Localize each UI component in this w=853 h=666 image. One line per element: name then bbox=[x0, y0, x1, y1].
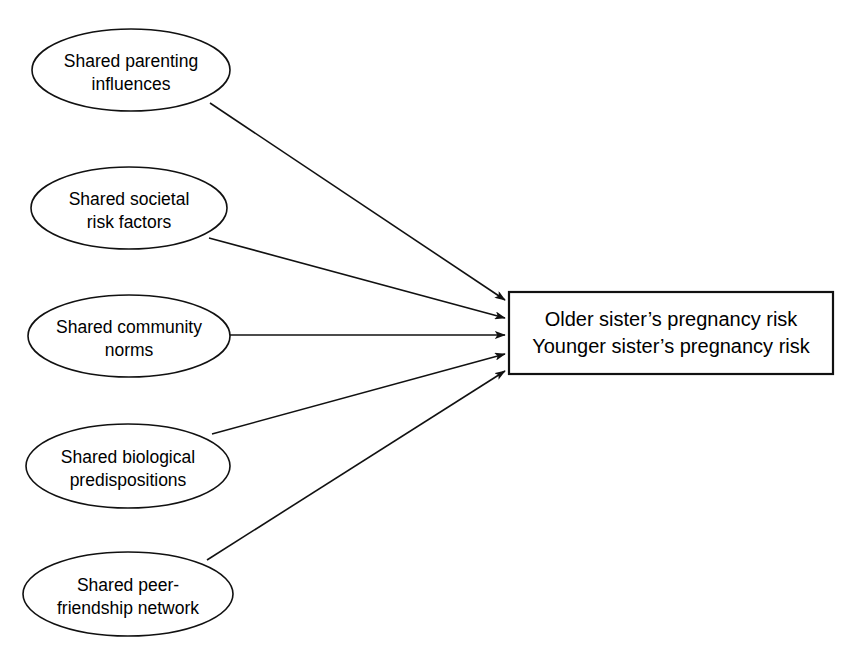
node-label-line2: predispositions bbox=[70, 470, 187, 490]
node-label-line1: Shared peer- bbox=[77, 575, 179, 595]
node-label-line2: risk factors bbox=[87, 212, 172, 232]
node-shared-community-norms[interactable]: Shared community norms bbox=[28, 295, 230, 377]
rectangle-shape bbox=[509, 292, 833, 374]
node-label-line2: friendship network bbox=[57, 598, 199, 618]
path-diagram: Shared parenting influences Shared socie… bbox=[0, 0, 853, 666]
node-label-line1: Shared community bbox=[56, 317, 202, 337]
outcome-label-line1: Older sister’s pregnancy risk bbox=[545, 308, 799, 330]
edge-parenting-to-outcome bbox=[210, 103, 505, 300]
edge-group bbox=[207, 103, 505, 560]
edge-biological-to-outcome bbox=[212, 354, 505, 434]
node-label-line2: influences bbox=[92, 74, 171, 94]
node-label-line2: norms bbox=[105, 340, 154, 360]
node-label-line1: Shared societal bbox=[69, 189, 190, 209]
node-shared-parenting-influences[interactable]: Shared parenting influences bbox=[32, 29, 230, 111]
edge-peer-to-outcome bbox=[207, 371, 505, 560]
node-label-line1: Shared biological bbox=[61, 447, 195, 467]
edge-societal-to-outcome bbox=[209, 238, 505, 318]
node-label-line1: Shared parenting bbox=[64, 51, 198, 71]
outcome-label-line2: Younger sister’s pregnancy risk bbox=[532, 335, 811, 357]
diagram-canvas: Shared parenting influences Shared socie… bbox=[0, 0, 853, 666]
node-shared-peer-friendship-network[interactable]: Shared peer- friendship network bbox=[23, 552, 233, 636]
node-shared-biological-predispositions[interactable]: Shared biological predispositions bbox=[26, 424, 230, 508]
node-pregnancy-risk-outcome[interactable]: Older sister’s pregnancy risk Younger si… bbox=[509, 292, 833, 374]
node-shared-societal-risk-factors[interactable]: Shared societal risk factors bbox=[31, 167, 227, 249]
